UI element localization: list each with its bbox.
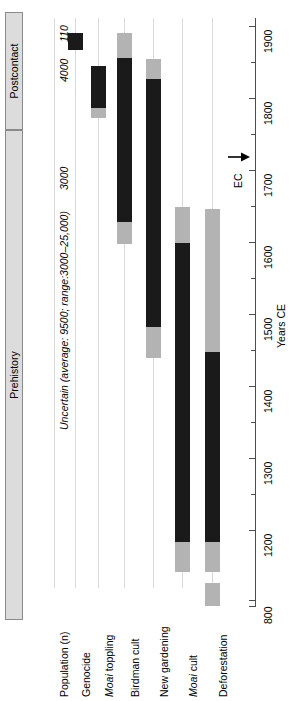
row-label-population: Population (n) (58, 632, 70, 697)
axis-minor-tick-1250 (251, 494, 255, 495)
row-label-genocide-text: Genocide (80, 652, 92, 697)
segment-uncertain-bottom (175, 542, 190, 572)
row-label-moai-cult-rest: cult (187, 655, 199, 674)
axis-tick-1400 (249, 386, 255, 387)
ec-arrow-icon (228, 151, 250, 163)
axis-label-1600: 1600 (262, 246, 274, 269)
axis-label-800: 800 (262, 606, 274, 624)
axis-minor-tick-1350 (251, 422, 255, 423)
axis-label-1300: 1300 (262, 462, 274, 485)
row-label-moai-cult-italic: Moai (187, 674, 199, 697)
axis-minor-tick-1450 (251, 350, 255, 351)
row-label-deforestation: Deforestation (217, 635, 229, 697)
plot-area: Uncertain (average: 9500; range:3000–25,… (0, 0, 298, 701)
ec-label: EC (232, 173, 244, 188)
axis-tick-1600 (249, 242, 255, 243)
x-axis-line (255, 18, 256, 606)
population-value-3000: 3000 (58, 167, 70, 190)
axis-minor-tick-1750 (251, 134, 255, 135)
bar-moai-toppling[interactable] (91, 66, 106, 118)
segment-certain (117, 58, 132, 222)
bar-moai-cult[interactable] (175, 207, 190, 572)
row-label-genocide: Genocide (80, 652, 92, 697)
row-label-birdman-cult-text: Birdman cult (129, 639, 141, 697)
row-label-moai-cult: Moai cult (187, 655, 199, 697)
row-label-moai-toppling: Moai toppling (103, 635, 115, 697)
bar-deforestation-early[interactable] (205, 583, 220, 606)
segment-uncertain-top (175, 207, 190, 243)
axis-label-1700: 1700 (262, 174, 274, 197)
axis-tick-1700 (249, 170, 255, 171)
segment-certain (91, 66, 106, 108)
axis-label-1900: 1900 (262, 30, 274, 53)
segment-uncertain-top (146, 59, 161, 79)
population-value-110: 110 (58, 25, 70, 42)
bar-new-gardening[interactable] (146, 59, 161, 358)
axis-tick-1900 (249, 26, 255, 27)
row-label-moai-toppling-rest: toppling (103, 635, 115, 675)
axis-minor-tick-1850 (251, 62, 255, 63)
axis-label-1800: 1800 (262, 102, 274, 125)
track-genocide (75, 18, 76, 588)
track-population (54, 18, 55, 588)
row-label-deforestation-text: Deforestation (217, 635, 229, 697)
segment-certain (205, 352, 220, 542)
bar-deforestation[interactable] (205, 209, 220, 572)
row-label-population-text: Population (n) (58, 632, 70, 697)
row-label-new-gardening-text: New gardening (158, 626, 170, 697)
segment-uncertain-top (205, 209, 220, 352)
axis-tick-1800 (249, 98, 255, 99)
population-uncertainty-note: Uncertain (average: 9500; range:3000–25,… (58, 211, 70, 430)
population-value-4000: 4000 (58, 59, 70, 82)
x-axis-title: Years CE (275, 304, 287, 348)
segment-uncertain-bottom (146, 327, 161, 358)
axis-minor-tick-1550 (251, 278, 255, 279)
axis-label-1200: 1200 (262, 534, 274, 557)
axis-tick-1500 (249, 314, 255, 315)
row-label-new-gardening: New gardening (158, 626, 170, 697)
bar-genocide[interactable] (68, 33, 83, 50)
segment-certain (175, 243, 190, 542)
axis-tick-1200 (249, 530, 255, 531)
axis-break-cap (249, 606, 256, 607)
bar-birdman-cult[interactable] (117, 33, 132, 244)
axis-label-1500: 1500 (262, 318, 274, 341)
axis-tick-1300 (249, 458, 255, 459)
row-label-moai-toppling-italic: Moai (103, 674, 115, 697)
axis-label-1400: 1400 (262, 390, 274, 413)
segment-uncertain-bottom (117, 222, 132, 244)
segment-certain (146, 79, 161, 327)
segment-certain (68, 33, 83, 50)
segment-uncertain-top (117, 33, 132, 58)
segment-uncertain (91, 108, 106, 118)
axis-tick-800 (249, 600, 255, 601)
axis-minor-tick-1650 (251, 206, 255, 207)
segment-uncertain-bottom (205, 542, 220, 572)
segment-uncertain-early (205, 583, 220, 606)
row-label-birdman-cult: Birdman cult (129, 639, 141, 697)
